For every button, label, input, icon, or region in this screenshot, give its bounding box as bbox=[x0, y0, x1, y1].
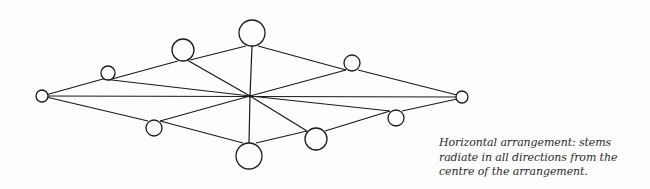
caption-line-1: Horizontal arrangement: stems bbox=[439, 136, 639, 151]
flower-node-upper-left-medium bbox=[172, 39, 194, 61]
caption-line-2: radiate in all directions from the bbox=[439, 151, 639, 166]
flower-node-lower-right-medium bbox=[305, 128, 327, 150]
stem-lines bbox=[42, 46, 462, 143]
stem-line bbox=[256, 131, 307, 143]
stem-line bbox=[250, 46, 252, 96]
stem-line bbox=[187, 60, 250, 96]
stem-line bbox=[112, 61, 178, 79]
caption-line-3: centre of the arrangement. bbox=[439, 165, 639, 180]
flower-node-lower-right-small bbox=[388, 110, 404, 126]
stem-line bbox=[103, 79, 250, 96]
stem-line bbox=[160, 121, 243, 143]
diagram-canvas: Horizontal arrangement: stems radiate in… bbox=[0, 0, 650, 189]
stem-line bbox=[250, 70, 346, 96]
center-point bbox=[248, 94, 251, 97]
flower-node-top bbox=[239, 20, 265, 46]
flower-node-left-tip bbox=[36, 90, 48, 102]
stem-line bbox=[42, 96, 148, 121]
flower-nodes bbox=[36, 20, 468, 169]
stem-line bbox=[42, 79, 103, 96]
stem-line bbox=[190, 46, 246, 60]
flower-node-upper-left-small bbox=[101, 66, 115, 80]
stem-line bbox=[402, 99, 457, 111]
stem-line bbox=[160, 96, 250, 121]
flower-node-bottom bbox=[236, 143, 262, 169]
flower-node-upper-right-small bbox=[344, 55, 360, 71]
flower-node-lower-left-small bbox=[146, 120, 162, 136]
stem-line bbox=[249, 96, 250, 143]
stem-line bbox=[258, 46, 346, 70]
flower-node-right-tip bbox=[456, 91, 468, 103]
stem-line bbox=[325, 111, 390, 131]
stem-line bbox=[358, 70, 457, 95]
figure-caption: Horizontal arrangement: stems radiate in… bbox=[439, 136, 639, 180]
